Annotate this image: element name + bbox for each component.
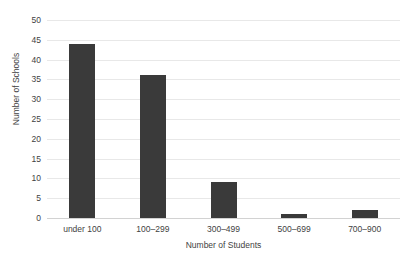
bar <box>69 44 95 218</box>
y-axis-tick-label: 35 <box>32 74 41 84</box>
x-axis-tick-label: under 100 <box>63 224 101 234</box>
gridline: 0 <box>47 218 400 219</box>
y-axis-tick-label: 10 <box>32 173 41 183</box>
y-axis-tick-label: 0 <box>36 213 41 223</box>
bar <box>352 210 378 218</box>
y-axis-tick-label: 45 <box>32 35 41 45</box>
bar <box>281 214 307 218</box>
y-axis-tick-label: 40 <box>32 55 41 65</box>
bar <box>140 75 166 218</box>
x-axis-tick-label: 100–299 <box>136 224 169 234</box>
bar <box>211 182 237 218</box>
y-axis-tick-label: 30 <box>32 94 41 104</box>
x-axis-tick-label: 300–499 <box>207 224 240 234</box>
x-axis-title: Number of Students <box>47 240 400 250</box>
y-axis-tick-label: 15 <box>32 154 41 164</box>
y-axis-tick-label: 50 <box>32 15 41 25</box>
bars-layer <box>47 20 400 218</box>
bar-chart: Number of Schools 50454035302520151050 u… <box>0 0 411 257</box>
chart-title <box>14 0 409 3</box>
y-axis-tick-label: 5 <box>36 193 41 203</box>
x-axis-tick-label: 500–699 <box>278 224 311 234</box>
x-axis-tick-label: 700–900 <box>348 224 381 234</box>
y-axis-title: Number of Schools <box>11 29 21 149</box>
y-axis-tick-label: 20 <box>32 134 41 144</box>
y-axis-tick-label: 25 <box>32 114 41 124</box>
plot-area: 50454035302520151050 under 100100–299300… <box>47 20 400 218</box>
